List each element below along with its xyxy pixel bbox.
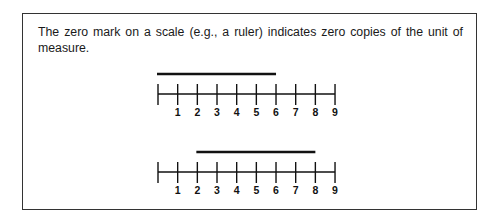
tick-label: 5 [253, 184, 259, 196]
tick-label: 4 [234, 106, 240, 118]
tick-label: 6 [273, 184, 279, 196]
rulers-figure: 123456789 123456789 [0, 0, 498, 224]
tick-label: 1 [175, 184, 181, 196]
tick-label: 5 [253, 106, 259, 118]
ruler-bottom: 123456789 [158, 152, 338, 196]
tick-label: 3 [214, 184, 220, 196]
tick-label: 6 [273, 106, 279, 118]
tick-label: 2 [194, 106, 200, 118]
tick-label: 8 [312, 106, 318, 118]
tick-label: 1 [175, 106, 181, 118]
tick-label: 7 [293, 184, 299, 196]
tick-label: 3 [214, 106, 220, 118]
tick-label: 9 [332, 184, 338, 196]
ruler-top: 123456789 [157, 74, 338, 118]
tick-label: 2 [194, 184, 200, 196]
tick-label: 9 [332, 106, 338, 118]
tick-label: 7 [293, 106, 299, 118]
tick-label: 4 [234, 184, 240, 196]
tick-label: 8 [312, 184, 318, 196]
